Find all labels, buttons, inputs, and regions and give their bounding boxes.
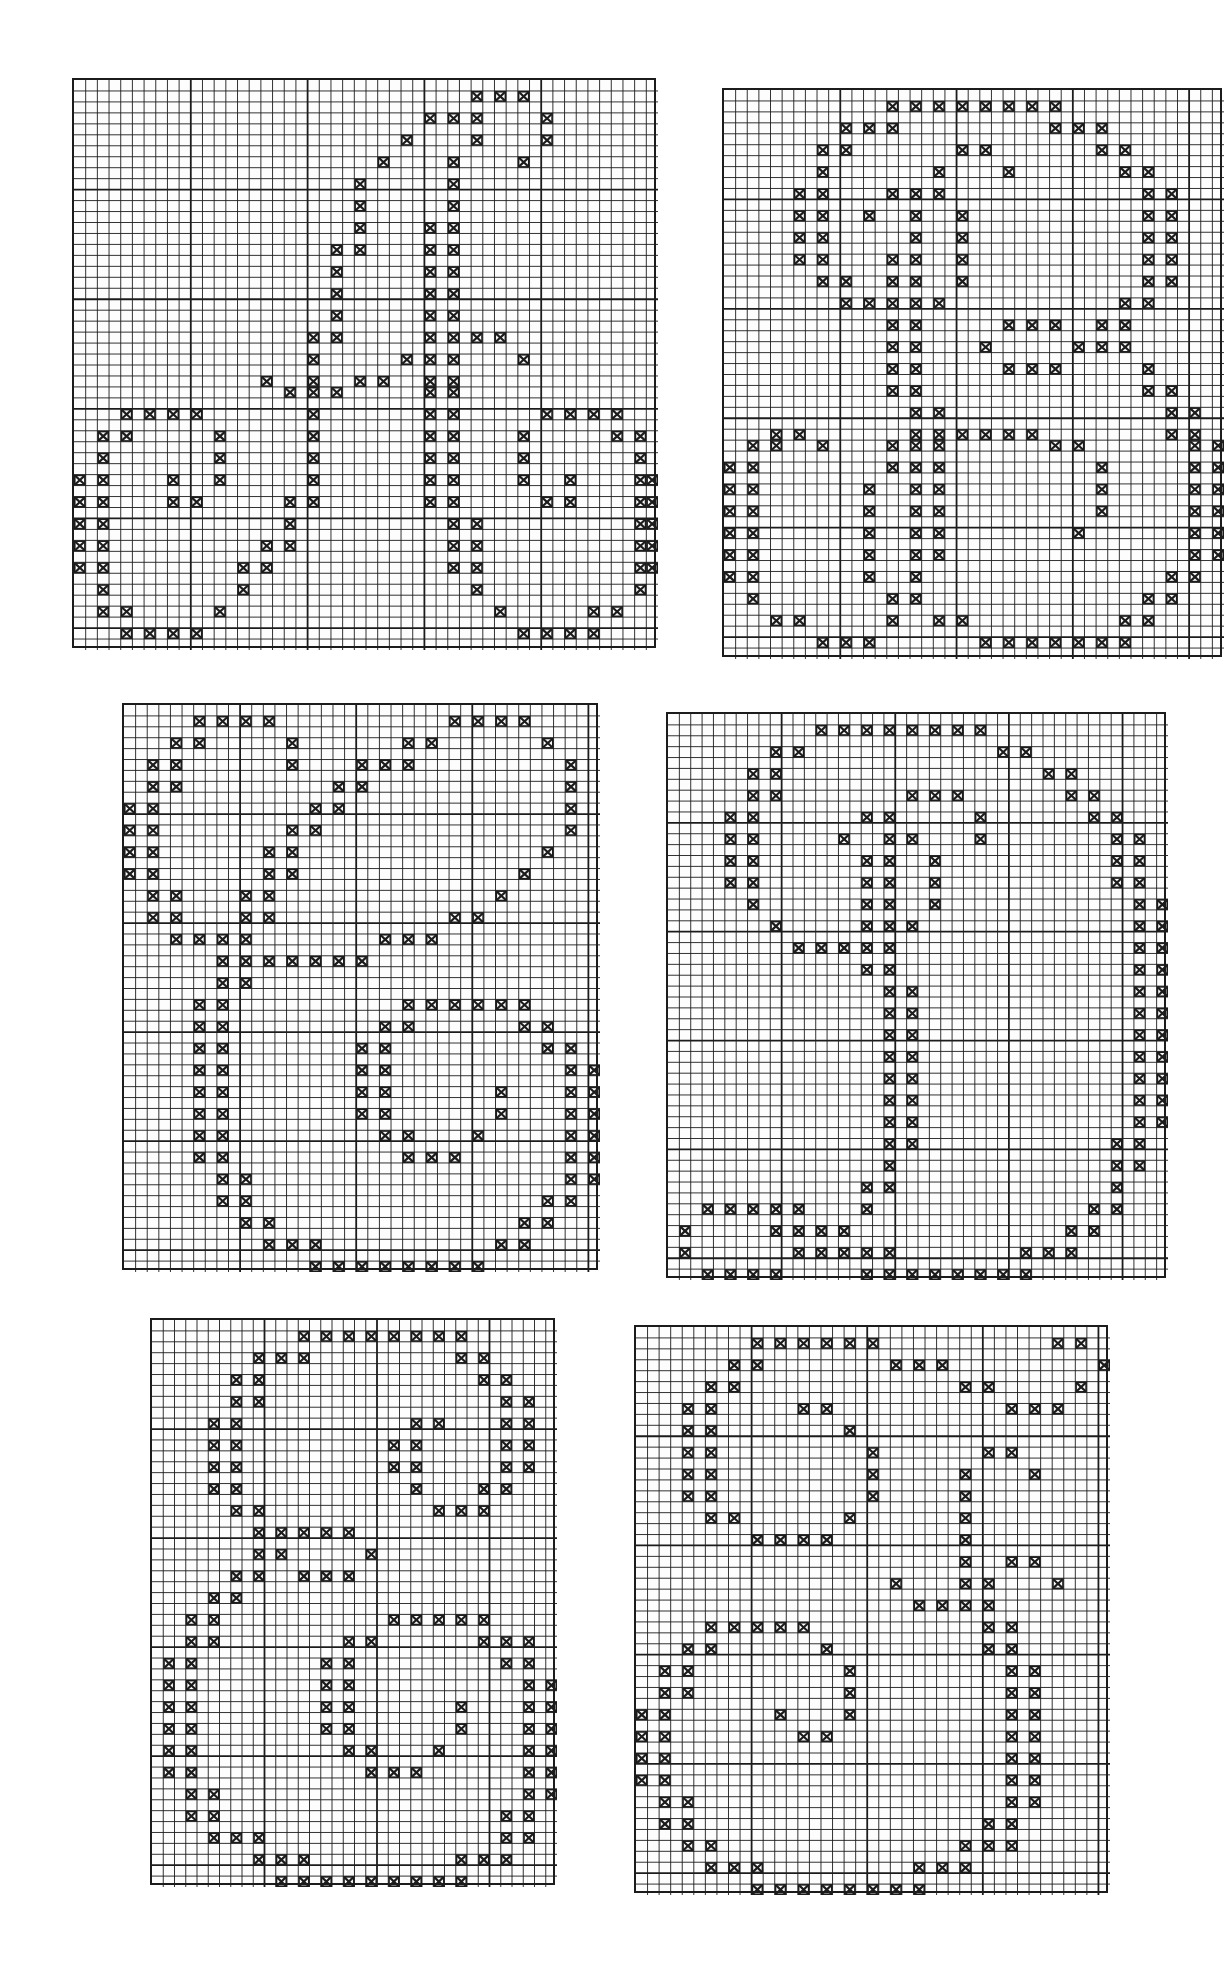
stitch-x-icon: [425, 432, 435, 441]
stitch-x-icon: [706, 1492, 716, 1501]
stitch-x-icon: [1004, 167, 1014, 176]
stitch-x-icon: [794, 747, 804, 756]
stitch-x-icon: [218, 1000, 228, 1009]
stitch-x-icon: [1167, 211, 1177, 220]
stitch-x-icon: [380, 935, 390, 944]
stitch-x-icon: [635, 585, 645, 594]
stitch-x-icon: [457, 1724, 467, 1733]
stitch-x-icon: [168, 475, 178, 484]
stitch-x-icon: [322, 1702, 332, 1711]
stitch-x-icon: [635, 541, 645, 550]
stitch-x-icon: [976, 1270, 986, 1279]
stitch-x-icon: [817, 1248, 827, 1257]
stitch-x-icon: [839, 1226, 849, 1235]
stitch-x-icon: [1097, 145, 1107, 154]
stitch-x-icon: [218, 1153, 228, 1162]
stitch-x-icon: [1135, 1118, 1145, 1127]
stitch-x-icon: [425, 410, 435, 419]
stitch-x-icon: [885, 900, 895, 909]
stitch-x-icon: [425, 388, 435, 397]
stitch-x-icon: [960, 1513, 970, 1522]
stitch-x-icon: [125, 869, 135, 878]
stitch-x-icon: [520, 1022, 530, 1031]
stitch-x-icon: [524, 1811, 534, 1820]
stitch-x-icon: [299, 1572, 309, 1581]
stitch-x-icon: [725, 485, 735, 494]
stitch-x-icon: [449, 355, 459, 364]
stitch-x-icon: [1027, 321, 1037, 330]
stitch-x-icon: [450, 1153, 460, 1162]
stitch-x-icon: [299, 1332, 309, 1341]
stitch-x-icon: [254, 1833, 264, 1842]
stitch-x-icon: [864, 507, 874, 516]
stitch-x-icon: [479, 1615, 489, 1624]
stitch-x-icon: [357, 760, 367, 769]
stitch-x-icon: [752, 1885, 762, 1894]
stitch-x-icon: [519, 629, 529, 638]
stitch-x-icon: [726, 856, 736, 865]
stitch-x-icon: [209, 1419, 219, 1428]
stitch-x-icon: [264, 1218, 274, 1227]
stitch-x-icon: [862, 965, 872, 974]
stitch-x-icon: [457, 1506, 467, 1515]
stitch-x-icon: [449, 289, 459, 298]
stitch-x-icon: [841, 145, 851, 154]
stitch-x-icon: [726, 1205, 736, 1214]
stitch-x-icon: [885, 726, 895, 735]
stitch-x-icon: [1143, 233, 1153, 242]
stitch-x-icon: [496, 1087, 506, 1096]
stitch-x-icon: [264, 848, 274, 857]
stitch-x-icon: [1143, 211, 1153, 220]
stitch-x-icon: [241, 978, 251, 987]
stitch-x-icon: [547, 1768, 557, 1777]
stitch-x-icon: [547, 1724, 557, 1733]
stitch-x-icon: [911, 572, 921, 581]
stitch-x-icon: [862, 1183, 872, 1192]
stitch-x-icon: [885, 1030, 895, 1039]
stitch-x-icon: [726, 1270, 736, 1279]
stitch-x-icon: [566, 1196, 576, 1205]
stitch-x-icon: [888, 594, 898, 603]
stitch-x-icon: [1120, 616, 1130, 625]
stitch-x-icon: [412, 1768, 422, 1777]
stitch-x-icon: [1004, 102, 1014, 111]
stitch-x-icon: [748, 594, 758, 603]
stitch-x-icon: [771, 1205, 781, 1214]
stitch-x-icon: [254, 1550, 264, 1559]
stitch-x-icon: [425, 267, 435, 276]
stitch-x-icon: [1050, 364, 1060, 373]
stitch-x-icon: [547, 1681, 557, 1690]
stitch-x-icon: [1157, 922, 1167, 931]
stitch-x-icon: [1007, 1557, 1017, 1566]
stitch-x-icon: [1097, 507, 1107, 516]
stitch-x-icon: [885, 965, 895, 974]
stitch-x-icon: [520, 1218, 530, 1227]
chart-middle-left: [122, 703, 598, 1270]
stitch-x-icon: [725, 528, 735, 537]
stitch-x-icon: [888, 342, 898, 351]
stitch-x-icon: [496, 1000, 506, 1009]
stitch-x-icon: [232, 1419, 242, 1428]
stitch-x-icon: [1120, 167, 1130, 176]
stitch-x-icon: [125, 848, 135, 857]
stitch-x-icon: [635, 475, 645, 484]
stitch-x-icon: [479, 1375, 489, 1384]
stitch-x-icon: [957, 277, 967, 286]
stitch-x-icon: [254, 1528, 264, 1537]
stitch-x-icon: [285, 519, 295, 528]
stitch-x-icon: [934, 299, 944, 308]
stitch-x-icon: [308, 355, 318, 364]
stitch-x-icon: [148, 913, 158, 922]
stitch-x-icon: [457, 1615, 467, 1624]
stitch-x-icon: [888, 277, 898, 286]
stitch-x-icon: [1112, 1161, 1122, 1170]
stitch-x-icon: [748, 441, 758, 450]
stitch-x-icon: [680, 1226, 690, 1235]
stitch-x-icon: [907, 1139, 917, 1148]
stitch-x-icon: [706, 1382, 716, 1391]
stitch-x-icon: [930, 791, 940, 800]
stitch-x-icon: [502, 1463, 512, 1472]
stitch-x-icon: [752, 1863, 762, 1872]
stitch-x-icon: [524, 1833, 534, 1842]
stitch-x-icon: [425, 245, 435, 254]
